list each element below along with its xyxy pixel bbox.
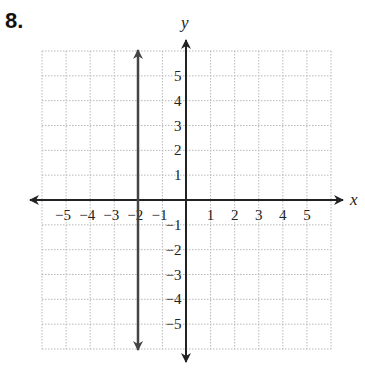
y-tick-label: 2 — [174, 142, 182, 158]
x-tick-label: −5 — [55, 207, 71, 223]
x-tick-label: 5 — [303, 207, 311, 223]
y-tick-label: −1 — [166, 217, 182, 233]
y-tick-label: −5 — [166, 316, 182, 332]
x-tick-label: 4 — [279, 207, 287, 223]
y-tick-label: 3 — [174, 118, 182, 134]
x-tick-label: −2 — [127, 207, 143, 223]
y-tick-label: 5 — [174, 68, 182, 84]
x-tick-label: 3 — [255, 207, 263, 223]
x-tick-label: 2 — [231, 207, 239, 223]
x-tick-label: −3 — [103, 207, 119, 223]
y-tick-label: 1 — [174, 167, 182, 183]
y-tick-label: −2 — [166, 242, 182, 258]
y-axis-label: y — [179, 13, 189, 32]
x-tick-label: 1 — [207, 207, 215, 223]
x-axis-label: x — [349, 190, 358, 209]
x-tick-label: −4 — [79, 207, 95, 223]
y-tick-label: 4 — [174, 93, 182, 109]
coordinate-plane: −5−4−3−2−11234554321−1−2−3−4−5 x y — [0, 0, 365, 372]
y-tick-label: −4 — [166, 291, 182, 307]
y-tick-label: −3 — [166, 267, 182, 283]
